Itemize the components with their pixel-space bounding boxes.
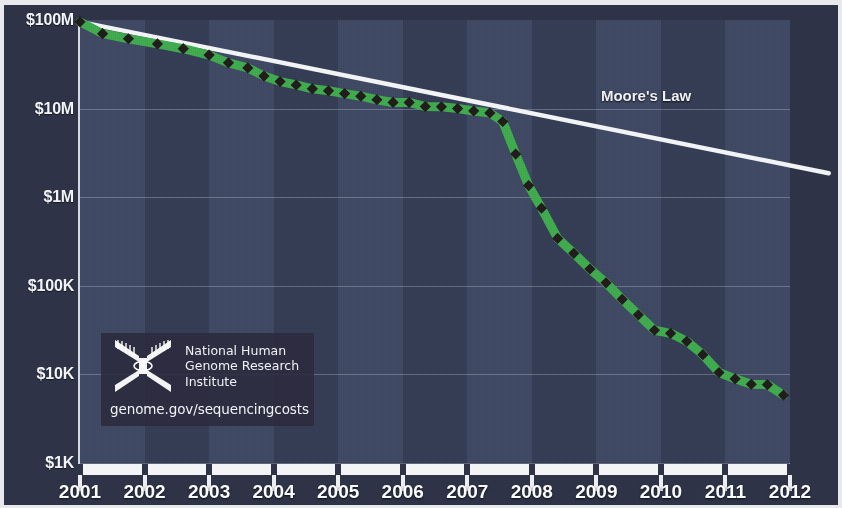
y-axis-tick-label: $1M [0, 188, 74, 206]
x-axis-tick-label: 2005 [317, 481, 359, 503]
x-axis-segment [212, 464, 271, 475]
x-axis-tick-label: 2007 [446, 481, 488, 503]
x-axis-segment [83, 464, 142, 475]
x-axis-tick-label: 2002 [123, 481, 165, 503]
x-axis-tick-label: 2011 [705, 481, 746, 503]
x-axis-tick-label: 2003 [188, 481, 230, 503]
x-axis-segment [341, 464, 400, 475]
dna-helix-icon [109, 336, 177, 396]
y-axis-tick-label: $100K [0, 277, 74, 295]
nhgri-logo: National Human Genome Research Institute… [101, 333, 314, 426]
logo-line-3: Institute [185, 374, 299, 390]
x-axis-segment [470, 464, 529, 475]
x-axis-segment [406, 464, 465, 475]
x-axis-tick-label: 2009 [575, 481, 617, 503]
y-axis-tick-label: $10M [0, 100, 74, 118]
x-axis-segment [277, 464, 336, 475]
moore-law-line [80, 22, 829, 173]
logo-url: genome.gov/sequencingcosts [110, 401, 309, 417]
x-axis-tick-label: 2004 [252, 481, 294, 503]
sequencing-cost-chart-image: $100M$10M$1M$100K$10K$1K Moore's Law 200… [0, 0, 842, 508]
x-axis-tick-label: 2006 [382, 481, 424, 503]
image-border-right [838, 0, 842, 508]
logo-text: National Human Genome Research Institute [185, 343, 299, 390]
x-axis-segment [664, 464, 723, 475]
y-axis-tick-label: $100M [0, 11, 74, 29]
x-axis-segment [148, 464, 207, 475]
x-axis-tick-label: 2008 [511, 481, 553, 503]
moore-law-annotation: Moore's Law [601, 87, 691, 104]
x-axis-tick-label: 2001 [59, 481, 101, 503]
x-axis-segment [535, 464, 594, 475]
x-axis-segment [599, 464, 658, 475]
logo-row: National Human Genome Research Institute [101, 333, 314, 399]
x-axis-segment [728, 464, 787, 475]
y-axis-tick-label: $1K [0, 454, 74, 472]
y-axis-tick-label: $10K [0, 365, 74, 383]
x-axis [80, 464, 792, 476]
x-axis-tick-label: 2010 [640, 481, 682, 503]
logo-line-1: National Human [185, 343, 299, 359]
logo-line-2: Genome Research [185, 358, 299, 374]
x-axis-tick-label: 2012 [769, 481, 811, 503]
